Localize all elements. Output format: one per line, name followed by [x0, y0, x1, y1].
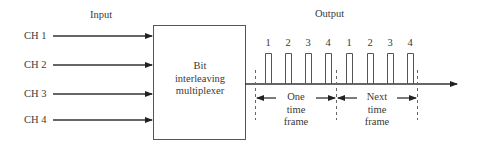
pulse-8: [408, 54, 414, 85]
frame-label-1: One time frame: [271, 91, 321, 129]
pulse-label-5: 1: [343, 37, 355, 49]
frame-label-2: Next time frame: [352, 91, 402, 129]
frame-label-1-line2: time: [271, 104, 321, 117]
pulse-7: [388, 54, 394, 85]
pulse-2: [286, 54, 292, 85]
multiplexer-label-line3: multiplexer: [154, 85, 246, 98]
pulse-label-2: 2: [282, 37, 294, 49]
frame-label-2-line1: Next: [352, 91, 402, 104]
pulse-6: [368, 54, 374, 85]
channel-label-4: CH 4: [24, 114, 46, 126]
frame-label-1-line3: frame: [271, 116, 321, 129]
pulse-3: [306, 54, 312, 85]
pulse-label-4: 4: [322, 37, 334, 49]
multiplexer-label-line2: interleaving: [154, 73, 246, 86]
pulse-label-3: 3: [302, 37, 314, 49]
channel-label-1: CH 1: [24, 30, 46, 42]
multiplexer-label-line1: Bit: [154, 60, 246, 73]
pulse-label-7: 3: [384, 37, 396, 49]
pulse-1: [266, 54, 272, 85]
pulse-label-6: 2: [364, 37, 376, 49]
channel-label-2: CH 2: [24, 59, 46, 71]
frame-label-2-line3: frame: [352, 116, 402, 129]
frame-label-2-line2: time: [352, 104, 402, 117]
pulse-4: [326, 54, 332, 85]
output-heading: Output: [315, 8, 344, 20]
pulse-label-8: 4: [404, 37, 416, 49]
frame-label-1-line1: One: [271, 91, 321, 104]
pulse-train: [266, 54, 414, 85]
multiplexer-label: Bit interleaving multiplexer: [154, 60, 246, 98]
pulse-5: [347, 54, 353, 85]
channel-label-3: CH 3: [24, 88, 46, 100]
input-heading: Input: [90, 9, 112, 21]
pulse-label-1: 1: [262, 37, 274, 49]
channel-arrows: [53, 36, 152, 120]
